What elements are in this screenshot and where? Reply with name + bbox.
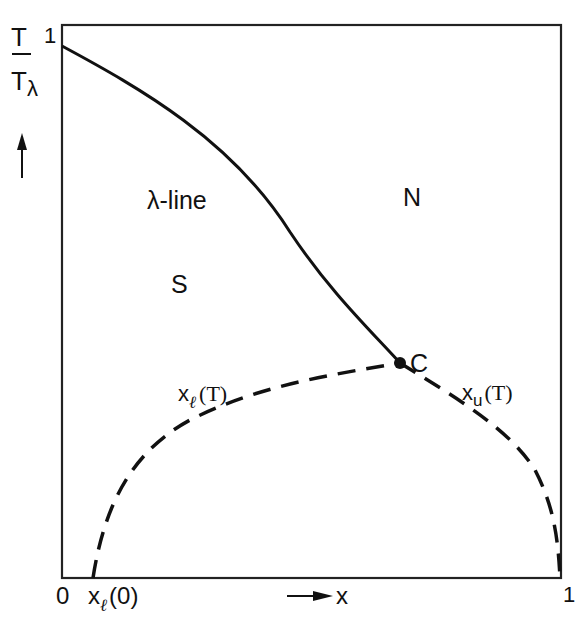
xl-curve-label-sub: ℓ <box>189 393 196 412</box>
x-tick-zero: 0 <box>56 584 69 608</box>
x-tick-xl0: xℓ(0) <box>88 584 138 608</box>
lambda-line-curve <box>62 46 400 363</box>
phase-diagram-plot <box>0 0 579 627</box>
y-axis-label-t: T <box>11 66 27 96</box>
plot-frame <box>62 25 561 578</box>
xl-curve <box>93 363 400 578</box>
xl-curve-label-main: x <box>178 381 189 406</box>
x-tick-xl0-arg: (0) <box>109 582 138 609</box>
x-axis-arrow-icon <box>287 591 333 601</box>
critical-point-c <box>394 357 406 369</box>
xl-curve-label-arg: (T) <box>199 381 227 406</box>
region-n-label: N <box>403 185 421 210</box>
x-tick-one: 1 <box>563 584 575 606</box>
xu-curve-label-arg: (T) <box>484 380 512 405</box>
critical-point-label: C <box>410 351 428 376</box>
xu-curve-label: xu(T) <box>462 382 513 404</box>
y-axis-label-numerator: T <box>11 24 27 50</box>
xu-curve-label-sub: u <box>473 391 482 410</box>
y-axis-label-denominator: Tλ <box>11 68 38 94</box>
xl-curve-label: xℓ(T) <box>178 383 227 405</box>
x-axis-name: x <box>336 584 348 608</box>
y-tick-one: 1 <box>44 25 56 47</box>
y-axis-arrow-icon <box>17 133 27 178</box>
lambda-line-label: λ-line <box>147 188 207 213</box>
x-tick-xl0-sub: ℓ <box>100 596 107 615</box>
region-s-label: S <box>171 272 188 297</box>
y-axis-label-lambda: λ <box>27 76 38 101</box>
x-tick-xl0-main: x <box>88 582 100 609</box>
xu-curve-label-main: x <box>462 380 473 405</box>
